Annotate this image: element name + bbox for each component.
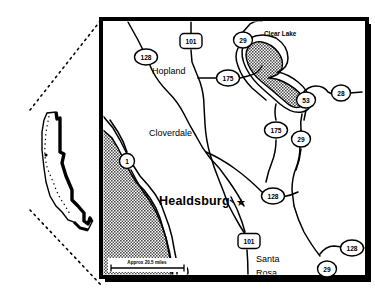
shield-101-north: 101 — [180, 34, 202, 49]
svg-text:101: 101 — [185, 38, 196, 45]
svg-text:29: 29 — [239, 37, 247, 44]
map-figure: Hopland Cloverdale Santa Rosa Healdsburg… — [0, 0, 375, 299]
healdsburg-star-icon: ★ — [236, 196, 246, 209]
shield-29-clearlake: 29 — [234, 32, 253, 48]
shield-29-south: 29 — [318, 261, 337, 277]
shield-101-south: 101 — [238, 234, 260, 249]
svg-text:1: 1 — [125, 158, 129, 165]
shield-175-north: 175 — [217, 70, 240, 86]
label-santa: Santa — [256, 254, 280, 264]
scale-bar-label: Approx 20.5 miles — [127, 260, 167, 265]
inset-locator-dot — [44, 153, 47, 156]
shield-29-mid: 29 — [292, 131, 311, 147]
svg-text:175: 175 — [222, 75, 233, 82]
svg-text:128: 128 — [346, 245, 357, 252]
scale-bar: Approx 20.5 miles — [108, 258, 187, 272]
svg-text:128: 128 — [140, 54, 151, 61]
svg-text:29: 29 — [297, 136, 305, 143]
shield-128-hopland: 128 — [135, 49, 158, 65]
label-hopland: Hopland — [152, 66, 186, 76]
label-cloverdale: Cloverdale — [149, 128, 192, 138]
label-clear-lake: Clear Lake — [264, 30, 297, 37]
shield-1-coast: 1 — [120, 154, 135, 169]
shield-128-healdsburg: 128 — [262, 188, 285, 204]
shield-28: 28 — [332, 85, 351, 101]
label-healdsburg: Healdsburg — [159, 194, 230, 208]
svg-text:175: 175 — [270, 127, 281, 134]
shield-175-south: 175 — [265, 122, 288, 138]
map-canvas: Hopland Cloverdale Santa Rosa Healdsburg… — [0, 0, 375, 299]
svg-text:53: 53 — [302, 97, 310, 104]
shield-53: 53 — [297, 92, 316, 108]
svg-text:28: 28 — [337, 90, 345, 97]
svg-text:101: 101 — [243, 238, 254, 245]
svg-text:128: 128 — [267, 193, 278, 200]
shield-128-southeast: 128 — [341, 240, 364, 256]
svg-text:29: 29 — [323, 266, 331, 273]
